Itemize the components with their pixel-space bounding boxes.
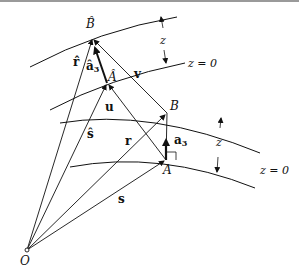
upper-z-dimension-arrow-bottom	[164, 50, 166, 63]
lower-z-dimension-arrow-top	[220, 118, 221, 128]
label-upper-z0: z = 0	[187, 57, 217, 70]
upper-surface-z0	[50, 63, 185, 110]
label-lower-z0: z = 0	[259, 164, 289, 177]
label-r: r	[125, 134, 132, 148]
label-O: O	[20, 254, 30, 268]
vector-s	[27, 161, 164, 250]
label-B: B	[169, 99, 179, 113]
label-upper-z: z	[159, 34, 166, 47]
upper-surface-z	[30, 17, 177, 67]
label-lower-z: z	[215, 136, 222, 149]
label-u: u	[105, 100, 114, 114]
label-s-hat: ŝ	[87, 127, 94, 141]
origin-point	[25, 248, 29, 252]
label-a3-hat: â3	[86, 59, 100, 74]
label-v: v	[133, 67, 142, 81]
label-r-hat: r̂	[73, 55, 80, 69]
label-a3: a3	[174, 133, 188, 148]
right-angle-marker	[167, 152, 176, 160]
lower-z-dimension-arrow-bottom	[217, 157, 218, 172]
label-A: A	[162, 163, 172, 177]
upper-z-dimension-arrow-top	[161, 17, 163, 28]
label-A-hat: Â	[107, 69, 117, 84]
vector-geometry-diagram: B̂ Â B A O r̂ â3 v u ŝ r s a3 z z = 0 z …	[0, 0, 299, 280]
vector-s-hat	[27, 85, 106, 250]
label-s: s	[118, 192, 125, 206]
label-B-hat: B̂	[85, 16, 95, 31]
